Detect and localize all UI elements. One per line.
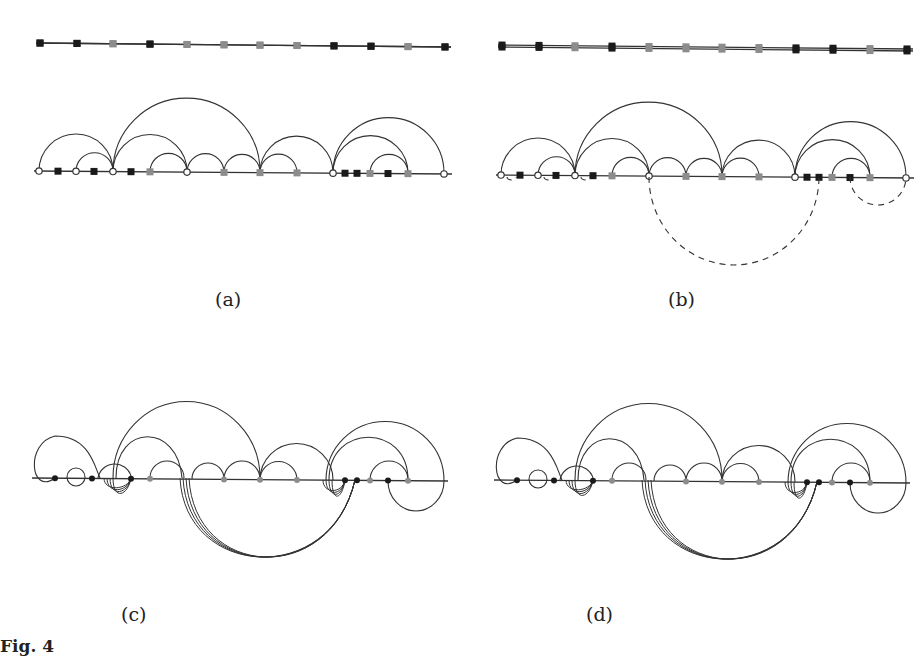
grey-square-node [221,41,228,48]
grey-square-node [257,42,264,49]
grey-dot-node [405,478,411,484]
grey-dot-node [257,477,263,483]
grey-square-node [683,173,690,180]
arc-edge [39,134,113,171]
arc-edge [722,158,759,176]
arc-diagram-figure [0,0,924,656]
arc-edge [612,157,649,176]
grey-square-node [110,40,117,47]
dark-dot-node [590,478,596,484]
arc-edge [788,424,906,483]
arc-edge [113,135,187,172]
open-circle-node [441,171,447,177]
arc-edge [260,154,297,173]
arc-edge [187,154,224,173]
dashed-arc-edge [649,177,819,265]
grey-dot-node [829,479,835,485]
arc-edge [795,122,906,178]
dark-square-node [904,45,911,52]
grey-square-node [294,169,301,176]
grey-square-node [572,42,579,49]
dark-square-node [517,172,524,179]
arc-edge [113,98,260,171]
grey-square-node [683,43,690,50]
arc-edge [501,138,575,175]
open-circle-node [498,172,504,178]
dark-square-node [609,43,616,50]
dark-dot-node [514,477,520,483]
dashed-arc-edge [850,177,906,205]
grey-square-node [184,41,191,48]
dark-square-node [804,174,811,181]
grey-square-node [221,169,228,176]
grey-square-node [405,170,412,177]
dark-square-node [74,40,81,47]
grey-square-node [294,42,301,49]
open-circle-node [110,168,116,174]
arc-edge [791,439,870,482]
dark-square-node [499,42,506,49]
grey-dot-node [719,479,725,485]
grey-dot-node [867,480,873,486]
dark-square-node [536,42,543,49]
dark-square-node [385,170,392,177]
arc-edge [192,463,224,479]
panel-label-d: (d) [586,603,613,625]
dark-square-node [147,41,154,48]
top-sequence-line [36,43,451,47]
dark-square-node [553,172,560,179]
grey-square-node [756,173,763,180]
self-loop-edge [67,468,85,486]
open-circle-node [572,172,578,178]
arc-edge [370,461,408,480]
dark-square-node [55,168,62,175]
arc-edge [260,462,297,481]
dark-square-node [37,40,44,47]
dark-square-node [342,170,349,177]
dark-dot-node [89,475,95,481]
dark-dot-node [342,477,348,483]
figure-caption: Fig. 4 [0,636,54,656]
dark-dot-node [816,479,822,485]
panel-label-a: (a) [215,288,241,310]
dark-square-node [793,44,800,51]
open-circle-node [903,175,909,181]
arc-edge [654,465,686,481]
grey-square-node [867,45,874,52]
open-circle-node [184,169,190,175]
grey-square-node [147,168,154,175]
open-circle-node [36,168,42,174]
grey-dot-node [756,479,762,485]
dashed-arc-edge [507,177,516,180]
panel-label-b: (b) [668,288,695,310]
arc-edge [388,481,444,511]
arc-edge [224,154,260,172]
grey-dot-node [294,477,300,483]
grey-square-node [867,174,874,181]
dark-dot-node [52,475,58,481]
arc-edge [686,158,722,176]
dark-dot-node [551,477,557,483]
grey-dot-node [609,478,615,484]
open-circle-node [792,174,798,180]
grey-square-node [646,43,653,50]
dark-square-node [830,45,837,52]
dark-square-node [354,170,361,177]
grey-square-node [829,174,836,181]
panel-label-c: (c) [121,603,146,625]
grey-dot-node [221,476,227,482]
dark-dot-node [385,478,391,484]
dashed-arc-edge [544,177,553,180]
arc-edge [649,158,686,176]
dark-square-node [128,168,135,175]
dark-dot-node [354,477,360,483]
dark-square-node [331,42,338,49]
dark-square-node [442,43,449,50]
arc-edge [575,102,722,175]
arc-edge [98,464,131,478]
arc-edge [116,437,182,478]
grey-dot-node [367,477,373,483]
grey-dot-node [147,476,153,482]
arc-edge [850,483,906,513]
arc-edge [578,439,644,480]
